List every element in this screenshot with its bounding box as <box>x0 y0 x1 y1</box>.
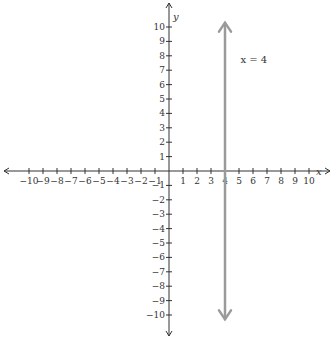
x-tick-label: −8 <box>50 176 64 186</box>
y-tick-label: 1 <box>159 152 165 162</box>
x-axis: −10−9−8−7−6−5−4−3−2−112345678910 <box>4 168 330 186</box>
y-tick-label: −5 <box>152 238 166 248</box>
x-tick-label: 10 <box>303 176 315 186</box>
y-tick-label: 6 <box>159 80 165 90</box>
x-tick-label: 2 <box>194 176 200 186</box>
x-tick-label: 1 <box>180 176 186 186</box>
y-tick-label: 8 <box>159 51 165 61</box>
y-tick-label: −2 <box>152 195 165 205</box>
x-tick-label: 5 <box>236 176 242 186</box>
x-tick-label: 7 <box>264 176 270 186</box>
x-tick-label: 3 <box>208 176 214 186</box>
x-tick-label: 8 <box>278 176 284 186</box>
line-equation-label: x = 4 <box>240 54 267 65</box>
x-tick-label: −5 <box>92 176 106 186</box>
y-axis-label: y <box>172 11 179 22</box>
y-tick-label: 2 <box>159 137 165 147</box>
x-tick-label: −6 <box>78 176 92 186</box>
y-tick-label: 5 <box>159 94 165 104</box>
x-tick-label: −2 <box>134 176 147 186</box>
x-tick-label: 9 <box>292 176 298 186</box>
coordinate-plane: −10−9−8−7−6−5−4−3−2−112345678910 −10−9−8… <box>0 0 335 345</box>
y-tick-label: −3 <box>152 209 166 219</box>
y-axis: −10−9−8−7−6−5−4−3−2−112345678910 <box>146 3 172 336</box>
y-tick-label: −9 <box>152 296 166 306</box>
x-tick-label: −4 <box>106 176 120 186</box>
y-tick-label: 10 <box>154 22 166 32</box>
x-tick-label: −3 <box>120 176 134 186</box>
y-tick-label: −6 <box>152 252 166 262</box>
x-tick-label: 6 <box>250 176 256 186</box>
y-tick-label: 3 <box>159 123 165 133</box>
y-tick-label: −7 <box>152 267 166 277</box>
y-tick-label: −1 <box>152 180 165 190</box>
y-tick-label: 9 <box>159 36 165 46</box>
y-tick-label: −8 <box>152 281 166 291</box>
x-tick-label: −7 <box>64 176 78 186</box>
x-axis-label: x <box>316 166 322 177</box>
y-tick-label: 4 <box>159 108 165 118</box>
y-tick-label: 7 <box>159 65 165 75</box>
y-tick-label: −4 <box>152 224 166 234</box>
y-tick-label: −10 <box>146 310 165 320</box>
x-tick-label: −9 <box>36 176 50 186</box>
